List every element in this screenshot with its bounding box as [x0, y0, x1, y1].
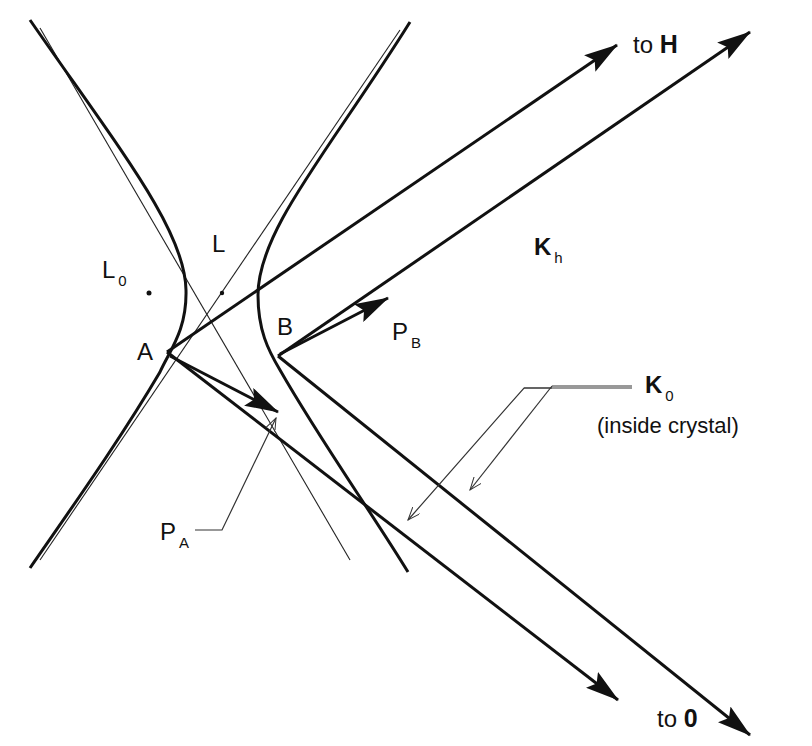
L0-sub: 0 — [118, 272, 126, 289]
pa-leader-line — [195, 418, 276, 530]
label-PB: PB — [392, 320, 421, 344]
Kh-main: K — [534, 233, 551, 260]
label-K0-note: (inside crystal) — [597, 415, 739, 437]
dispersion-branch-left — [30, 20, 186, 568]
diagram-canvas — [0, 0, 812, 746]
PA-sub: A — [179, 534, 189, 551]
k0-vector-from-A — [167, 352, 618, 700]
label-L: L — [212, 232, 225, 256]
kh-vector-from-A — [167, 45, 617, 352]
label-A: A — [137, 340, 153, 364]
to-O-symbol: 0 — [684, 704, 698, 732]
to-O-prefix: to — [657, 705, 684, 732]
K0-sub: 0 — [665, 387, 673, 404]
L-text: L — [212, 230, 225, 257]
k0-leader-2 — [470, 386, 552, 490]
label-to-O: to 0 — [657, 706, 698, 731]
label-B: B — [277, 315, 293, 339]
asymptote-line-1 — [40, 28, 350, 560]
A-text: A — [137, 338, 153, 365]
label-Kh: Kh — [534, 235, 563, 259]
label-PA: PA — [160, 520, 189, 544]
PB-sub: B — [411, 334, 421, 351]
pa-vector — [170, 356, 278, 412]
pb-vector — [280, 298, 388, 354]
K0-note-text: (inside crystal) — [597, 413, 739, 438]
L0-main: L — [102, 256, 115, 283]
Kh-sub: h — [554, 249, 562, 266]
point-L0 — [147, 291, 152, 296]
point-L — [220, 291, 224, 295]
K0-main: K — [645, 371, 662, 398]
k0-leader-1 — [408, 388, 552, 520]
PB-main: P — [392, 318, 408, 345]
to-H-prefix: to — [633, 31, 660, 58]
B-text: B — [277, 313, 293, 340]
label-to-H: to H — [633, 32, 678, 57]
label-L0: L0 — [102, 258, 127, 282]
to-H-symbol: H — [660, 30, 678, 58]
kh-vector-from-B — [278, 32, 750, 356]
PA-main: P — [160, 518, 176, 545]
label-K0: K0 — [645, 373, 674, 397]
